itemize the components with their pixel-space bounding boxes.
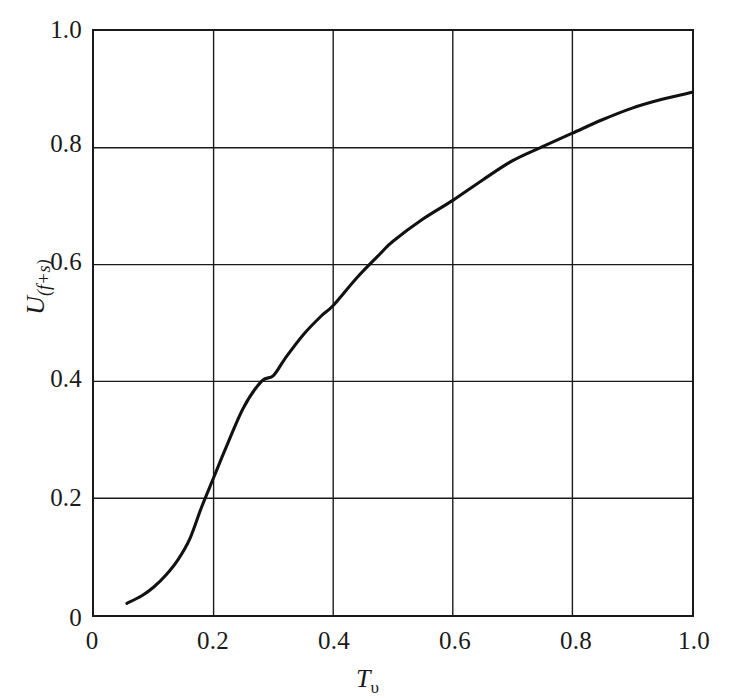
x-tick-label: 1.0 [649,628,735,653]
x-tick-label: 0.4 [289,628,379,653]
y-axis-tick-labels: 1.0 0.8 0.6 0.4 0.2 0 [0,0,82,698]
plot-area [92,29,694,617]
chart-figure: 1.0 0.8 0.6 0.4 0.2 0 U(f+s) 0 0.2 0.4 0… [0,0,735,698]
y-axis-title-subscript: (f+s) [34,259,54,296]
x-tick-label: 0 [47,628,137,653]
y-tick-label: 0.2 [10,485,82,510]
x-axis-title-subscript: υ [370,678,379,697]
y-tick-label: 0.8 [10,131,82,156]
y-tick-label: 0 [10,605,82,630]
x-axis-tick-labels: 0 0.2 0.4 0.6 0.8 1.0 [0,628,735,668]
x-axis-title-base: T [356,664,370,693]
x-tick-label: 0.2 [168,628,258,653]
data-curve [94,31,692,615]
x-tick-label: 0.8 [531,628,621,653]
x-axis-title: Tυ [0,664,735,698]
y-axis-title-base: U [21,296,50,315]
y-tick-label: 0.4 [10,366,82,391]
y-axis-title: U(f+s) [21,271,54,315]
series-line-u-fs [127,92,692,603]
x-tick-label: 0.6 [410,628,500,653]
y-tick-label: 1.0 [10,17,82,42]
